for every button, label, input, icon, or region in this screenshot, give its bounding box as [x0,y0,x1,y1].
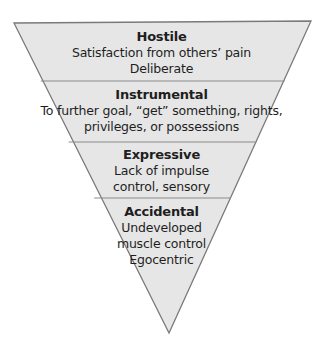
level-line: Lack of impulse [0,163,323,179]
level-title: Hostile [0,29,323,45]
level-line: control, sensory [0,179,323,195]
level-line: muscle control [0,236,323,252]
level-expressive: Expressive Lack of impulse control, sens… [0,147,323,195]
level-line: Egocentric [0,252,323,268]
level-title: Accidental [0,204,323,220]
level-accidental: Accidental Undeveloped muscle control Eg… [0,204,323,268]
level-instrumental: Instrumental To further goal, “get” some… [0,87,323,135]
level-title: Instrumental [0,87,323,103]
level-line: Satisfaction from others’ pain [0,45,323,61]
level-line: Deliberate [0,61,323,77]
level-title: Expressive [0,147,323,163]
level-line: Undeveloped [0,220,323,236]
level-hostile: Hostile Satisfaction from others’ pain D… [0,29,323,77]
level-line: privileges, or possessions [0,119,323,135]
level-line: To further goal, “get” something, rights… [0,103,323,119]
